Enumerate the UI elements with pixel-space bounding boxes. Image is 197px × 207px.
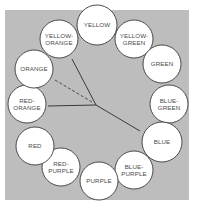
swatch-red: RED [16, 127, 54, 165]
swatch-label: GREEN [151, 60, 174, 67]
swatch-label: BLUE- [160, 97, 179, 104]
swatch-label: ORANGE [20, 65, 47, 72]
swatch-label: BLUE [154, 138, 171, 145]
swatch-label: PURPLE [86, 177, 111, 184]
swatch-blue: BLUE [142, 122, 182, 162]
swatch-label: RED- [19, 97, 35, 104]
swatch-label: RED- [53, 160, 69, 167]
swatch-green: GREEN [143, 45, 181, 83]
swatch-label: YELLOW [84, 21, 110, 28]
swatch-red-orange: RED-ORANGE [8, 85, 46, 123]
swatch-label: ORANGE [45, 39, 72, 46]
swatch-orange: ORANGE [15, 50, 53, 88]
swatch-label: YELLOW- [120, 32, 148, 39]
swatch-purple: PURPLE [80, 162, 118, 200]
swatch-yellow: YELLOW [77, 5, 117, 45]
swatch-blue-purple: BLUE-PURPLE [115, 151, 153, 189]
swatch-label: YELLOW- [45, 32, 73, 39]
swatch-label: BLUE- [125, 163, 144, 170]
color-wheel-diagram: YELLOWYELLOW-GREENGREENBLUE-GREENBLUEBLU… [0, 0, 197, 207]
swatch-label: PURPLE [121, 170, 146, 177]
swatch-label: RED [28, 142, 42, 149]
swatch-yellow-orange: YELLOW-ORANGE [40, 20, 78, 58]
swatch-label: ORANGE [13, 104, 40, 111]
swatch-blue-green: BLUE-GREEN [150, 85, 188, 123]
swatch-label: GREEN [158, 104, 181, 111]
swatch-label: GREEN [123, 39, 146, 46]
swatch-label: PURPLE [48, 167, 73, 174]
